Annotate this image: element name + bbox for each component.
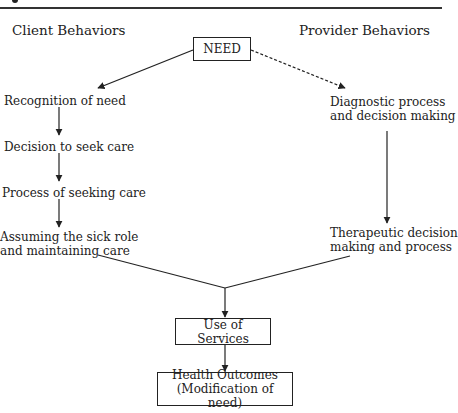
node-health-outcomes-line2: (Modification of need) (158, 382, 292, 410)
node-therapeutic-line1: Therapeutic decision (330, 226, 444, 240)
node-assuming-sick-role: Assuming the sick role and maintaining c… (0, 230, 118, 258)
node-diagnostic-line2: and decision making (330, 109, 444, 123)
node-health-outcomes: Health Outcomes (Modification of need) (157, 372, 293, 406)
node-need: NEED (193, 37, 251, 61)
node-need-label: NEED (203, 42, 241, 56)
node-assuming-sick-role-line2: and maintaining care (0, 244, 118, 258)
node-decision-to-seek-care: Decision to seek care (4, 140, 114, 154)
node-recognition-of-need: Recognition of need (4, 94, 114, 108)
node-assuming-sick-role-line1: Assuming the sick role (0, 230, 118, 244)
node-process-of-seeking-care: Process of seeking care (2, 186, 116, 200)
node-therapeutic-line2: making and process (330, 240, 444, 254)
node-diagnostic-line1: Diagnostic process (330, 95, 444, 109)
node-use-of-services-label: Use of Services (176, 318, 270, 346)
node-diagnostic-process: Diagnostic process and decision making (330, 95, 444, 123)
node-use-of-services: Use of Services (175, 318, 271, 345)
node-therapeutic-decision: Therapeutic decision making and process (330, 226, 444, 254)
node-health-outcomes-line1: Health Outcomes (172, 368, 278, 382)
